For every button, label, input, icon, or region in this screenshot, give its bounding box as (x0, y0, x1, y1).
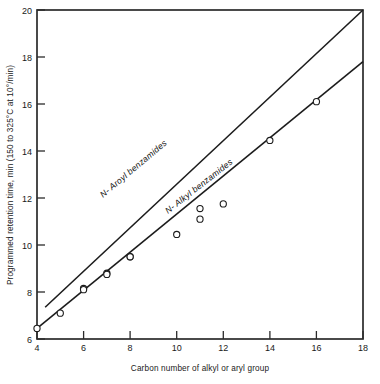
data-point (197, 205, 203, 211)
x-tick-label: 6 (81, 343, 86, 353)
data-point (197, 216, 203, 222)
x-tick-label: 10 (172, 343, 182, 353)
x-tick-label: 18 (358, 343, 368, 353)
series-layer (34, 10, 363, 332)
y-axis-title: Programmed retention time, min (150 to 3… (6, 65, 15, 285)
y-axis-ticks (37, 10, 45, 339)
x-axis-tick-labels: 4 6 8 10 12 14 16 18 (34, 343, 368, 353)
data-point (220, 201, 226, 207)
series-line (45, 10, 363, 307)
data-point (34, 325, 40, 331)
x-tick-label: 14 (265, 343, 275, 353)
y-tick-label: 8 (27, 288, 32, 298)
series-label-aroyl: N- Aroyl benzamides (98, 137, 169, 199)
series-alkyl (34, 62, 363, 332)
data-point (57, 310, 63, 316)
data-point (267, 137, 273, 143)
data-point (80, 287, 86, 293)
data-point (104, 271, 110, 277)
data-point (127, 254, 133, 260)
x-tick-label: 4 (34, 343, 39, 353)
y-tick-label: 20 (22, 6, 32, 16)
y-tick-label: 10 (22, 241, 32, 251)
x-tick-label: 12 (218, 343, 228, 353)
data-point (313, 99, 319, 105)
retention-time-chart: 20 18 16 14 12 10 8 6 4 6 8 10 12 14 16 … (0, 0, 380, 384)
x-axis-title: Carbon number of alkyl or aryl group (131, 364, 270, 373)
y-tick-label: 18 (22, 53, 32, 63)
y-tick-label: 16 (22, 100, 32, 110)
y-tick-label: 14 (22, 147, 32, 157)
data-point (174, 231, 180, 237)
series-aroyl (45, 10, 363, 307)
x-tick-label: 8 (128, 343, 133, 353)
x-tick-label: 16 (311, 343, 321, 353)
x-axis-ticks (37, 331, 363, 339)
y-axis-tick-labels: 20 18 16 14 12 10 8 6 (22, 6, 32, 345)
y-tick-label: 12 (22, 194, 32, 204)
y-tick-label: 6 (27, 335, 32, 345)
